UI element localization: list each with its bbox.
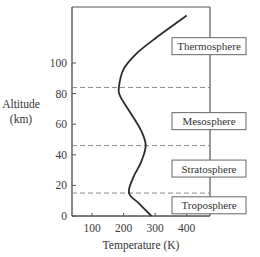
y-tick-label: 60 <box>56 118 68 130</box>
y-tick-label: 100 <box>50 57 68 69</box>
y-tick-label: 80 <box>56 88 68 100</box>
y-axis-title-line: Altitude <box>2 98 40 110</box>
thermosphere-label: Thermosphere <box>177 40 241 52</box>
atmosphere-temperature-chart: 020406080100 100200300400 ThermosphereMe… <box>0 0 260 257</box>
x-axis-title: Temperature (K) <box>103 239 180 252</box>
y-tick-label: 20 <box>56 179 68 191</box>
mesosphere-label: Mesosphere <box>182 115 235 127</box>
x-tick-label: 300 <box>147 222 165 234</box>
y-tick-label: 0 <box>61 210 67 222</box>
stratosphere-label: Stratosphere <box>182 163 237 175</box>
x-tick-label: 100 <box>83 222 101 234</box>
troposphere-label: Troposphere <box>181 199 236 211</box>
layer-labels: ThermosphereMesosphereStratosphereTropos… <box>172 38 246 214</box>
y-axis-title-line: (km) <box>10 113 33 126</box>
y-tick-label: 40 <box>56 149 68 161</box>
x-tick-label: 200 <box>115 222 133 234</box>
x-tick-label: 400 <box>178 222 196 234</box>
